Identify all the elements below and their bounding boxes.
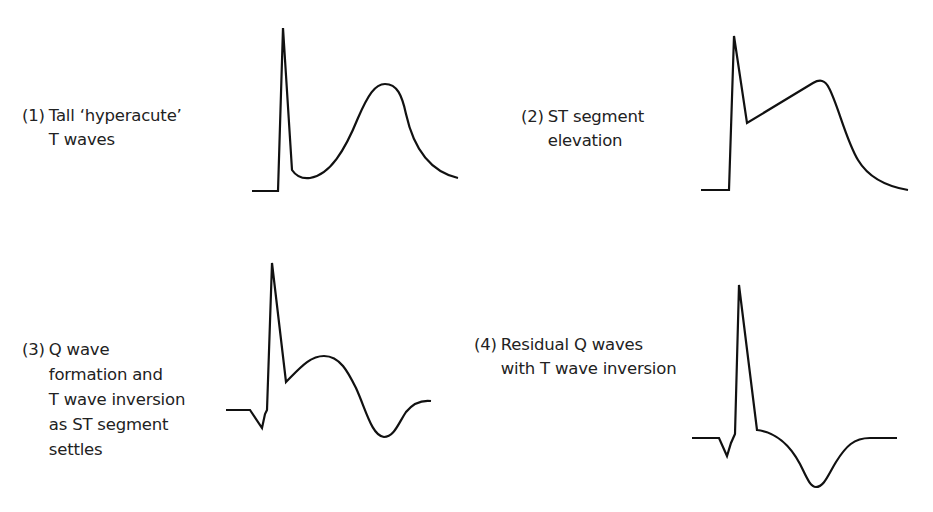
panel-4-label: (4) Residual Q waves with T wave inversi… xyxy=(474,333,676,381)
panel-2-label: (2) ST segment elevation xyxy=(521,105,644,153)
panel-2-label-line-1: ST segment xyxy=(548,105,644,129)
panel-3-label-line-5: settles xyxy=(49,437,185,462)
panel-4-label-line-2: with T wave inversion xyxy=(501,357,677,381)
panel-4-number: (4) xyxy=(474,333,497,381)
panel-4-label-line-1: Residual Q waves xyxy=(501,333,677,357)
ecg-waveform-q-wave-t-inversion xyxy=(226,263,431,437)
panel-3-label: (3) Q wave formation and T wave inversio… xyxy=(22,337,185,462)
panel-2-label-line-2: elevation xyxy=(548,129,644,153)
panel-1-label: (1) Tall ‘hyperacute’ T waves xyxy=(22,104,182,152)
ecg-waveform-residual-q-t-inversion xyxy=(692,285,897,487)
panel-1-number: (1) xyxy=(22,104,45,152)
panel-3-label-line-2: formation and xyxy=(49,362,185,387)
panel-3-label-line-3: T wave inversion xyxy=(49,387,185,412)
panel-1-label-line-2: T waves xyxy=(49,128,182,152)
ecg-waveform-st-elevation xyxy=(701,36,908,190)
panel-3-number: (3) xyxy=(22,337,45,462)
panel-3-label-line-1: Q wave xyxy=(49,337,185,362)
ecg-waveform-hyperacute-t xyxy=(252,28,458,191)
panel-2-number: (2) xyxy=(521,105,544,153)
panel-3-label-line-4: as ST segment xyxy=(49,412,185,437)
panel-1-label-line-1: Tall ‘hyperacute’ xyxy=(49,104,182,128)
